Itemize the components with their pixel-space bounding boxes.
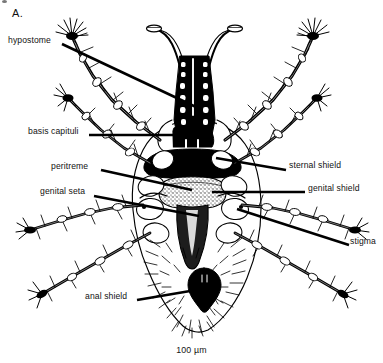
gnathosoma — [147, 25, 243, 152]
label-sternal-shield: sternal shield — [289, 161, 341, 170]
figure-plate: A. hypostome basis capituli peritreme ge… — [0, 0, 383, 363]
illustration-ink — [16, 18, 369, 338]
label-basis-capituli: basis capituli — [28, 127, 79, 136]
mite-ventral-illustration — [0, 0, 383, 363]
scale-caption: 100 µm — [0, 345, 383, 355]
leg-1-right-setae — [234, 33, 317, 133]
panel-letter: A. — [12, 7, 23, 19]
label-hypostome: hypostome — [8, 36, 51, 45]
leg-1-left — [56, 18, 160, 140]
label-genital-shield: genital shield — [308, 184, 360, 193]
leg-1-left-setae — [68, 33, 151, 133]
label-genital-seta: genital seta — [40, 187, 85, 196]
label-peritreme: peritreme — [51, 162, 88, 171]
label-stigma: stigma — [350, 237, 376, 246]
label-anal-shield: anal shield — [85, 292, 127, 301]
leg-1-right — [225, 18, 329, 140]
